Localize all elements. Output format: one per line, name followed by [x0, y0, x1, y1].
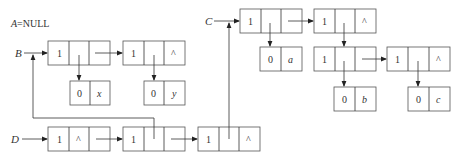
svg-text:a: a: [288, 54, 293, 65]
a-null-label: A=NULL: [10, 18, 49, 29]
svg-text:1: 1: [322, 54, 327, 65]
c-node-2: 1 ^: [314, 9, 376, 33]
c-pointer-label: C: [205, 15, 213, 27]
svg-text:1: 1: [395, 54, 400, 65]
svg-text:1: 1: [57, 134, 62, 145]
svg-text:1: 1: [131, 134, 136, 145]
svg-text:^: ^: [362, 16, 367, 27]
svg-text:0: 0: [268, 54, 273, 65]
a-atom-node: 0 a: [260, 47, 302, 71]
b-pointer-label: B: [15, 47, 22, 59]
y-atom-node: 0 y: [144, 81, 185, 105]
svg-text:1: 1: [322, 16, 327, 27]
svg-text:1: 1: [248, 16, 253, 27]
svg-text:^: ^: [246, 134, 251, 145]
svg-text:c: c: [436, 94, 441, 105]
svg-text:x: x: [96, 88, 102, 99]
svg-text:0: 0: [342, 94, 347, 105]
svg-text:1: 1: [206, 134, 211, 145]
c-node-4: 1 ^: [387, 47, 450, 71]
svg-text:0: 0: [77, 88, 82, 99]
null-symbol: ^: [171, 48, 176, 59]
svg-text:1: 1: [131, 48, 136, 59]
svg-text:1: 1: [57, 48, 62, 59]
svg-text:^: ^: [76, 134, 81, 145]
x-atom-node: 0 x: [70, 81, 110, 105]
b-atom-node: 0 b: [334, 87, 376, 111]
d-pointer-label: D: [10, 133, 19, 145]
c-atom-node: 0 c: [408, 87, 450, 111]
svg-text:^: ^: [436, 54, 441, 65]
svg-text:b: b: [362, 94, 367, 105]
svg-text:y: y: [171, 88, 177, 99]
generalized-list-diagram: A=NULL B 1 1 ^ 0 x 0 y C 1: [0, 0, 459, 162]
svg-text:0: 0: [416, 94, 421, 105]
svg-text:0: 0: [151, 88, 156, 99]
